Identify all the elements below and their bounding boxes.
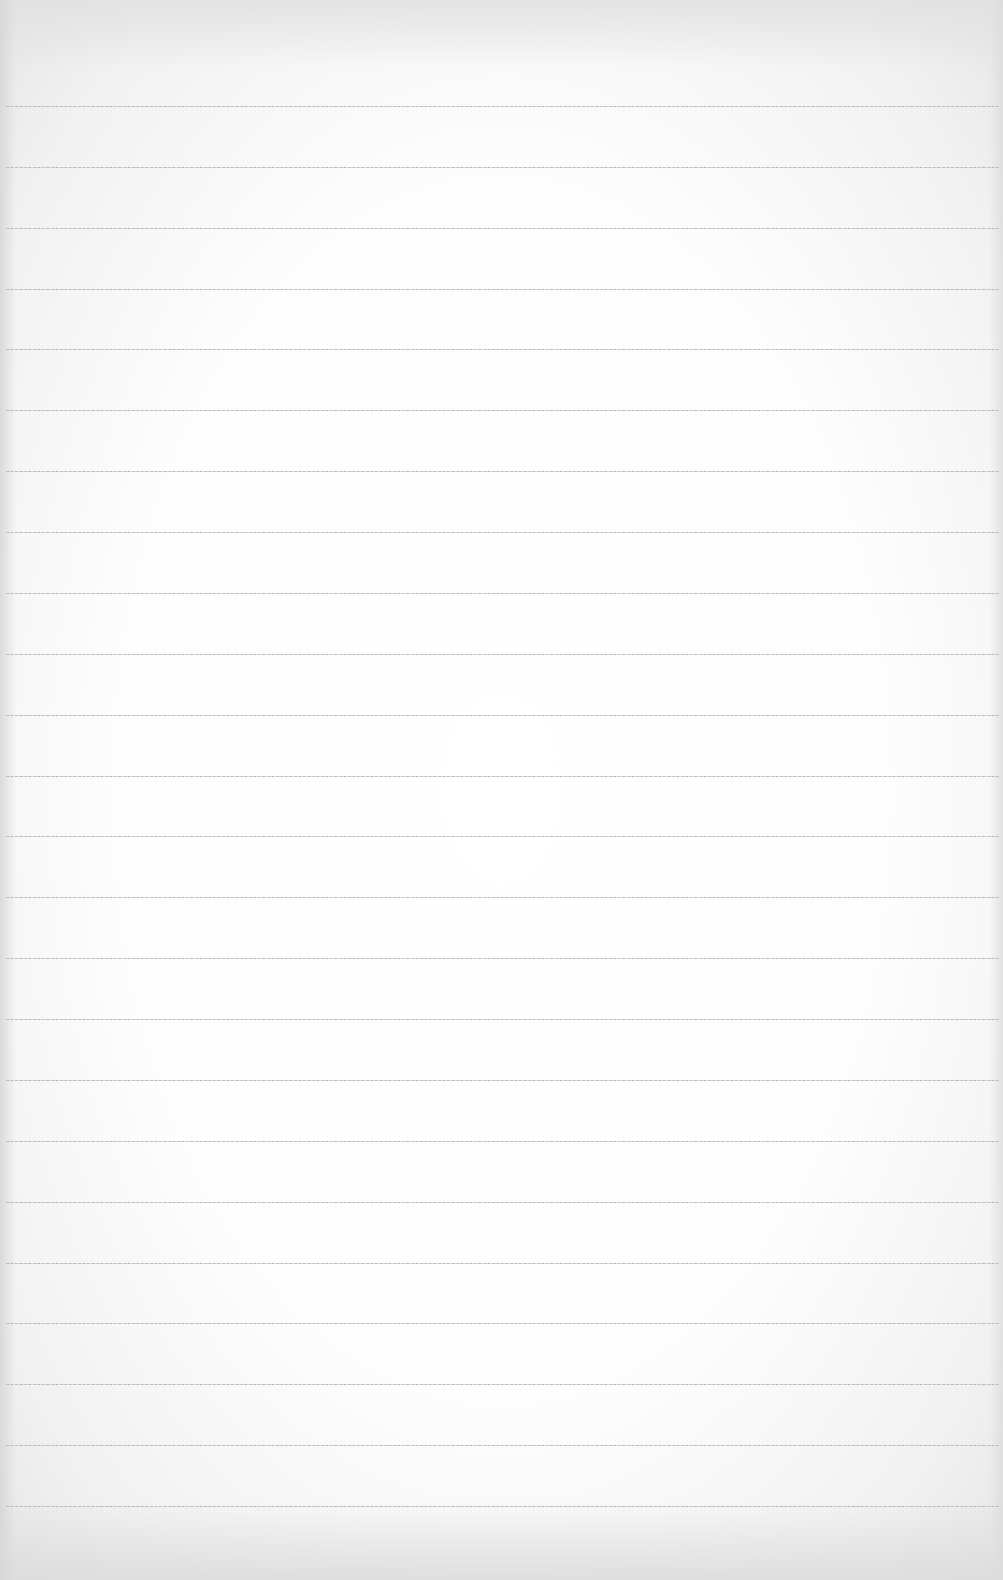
ruled-line <box>6 410 999 411</box>
ruled-line <box>6 349 999 350</box>
ruled-line <box>6 1019 999 1020</box>
ruled-line <box>6 532 999 533</box>
ruled-line <box>6 1323 999 1324</box>
ruled-line <box>6 106 999 107</box>
ruled-line <box>6 1202 999 1203</box>
ruled-line <box>6 654 999 655</box>
ruled-line <box>6 167 999 168</box>
ruled-line <box>6 897 999 898</box>
ruled-paper-sheet <box>0 0 1003 1580</box>
paper-shadow-right <box>989 0 1003 1580</box>
ruled-line <box>6 1141 999 1142</box>
ruled-line <box>6 715 999 716</box>
ruled-line <box>6 471 999 472</box>
ruled-line <box>6 958 999 959</box>
ruled-line <box>6 228 999 229</box>
ruled-line <box>6 836 999 837</box>
ruled-line <box>6 1080 999 1081</box>
paper-shadow-bottom <box>0 1500 1003 1580</box>
ruled-line <box>6 593 999 594</box>
paper-shadow-left <box>0 0 16 1580</box>
ruled-line <box>6 1263 999 1264</box>
paper-shadow-top <box>0 0 1003 70</box>
ruled-line <box>6 289 999 290</box>
ruled-line <box>6 1445 999 1446</box>
ruled-line <box>6 1506 999 1507</box>
ruled-line <box>6 776 999 777</box>
ruled-line <box>6 1384 999 1385</box>
